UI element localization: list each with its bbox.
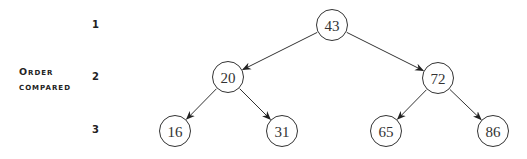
- edge-20-to-16: [187, 89, 217, 119]
- tree-nodes: 43207216316586: [160, 10, 509, 147]
- edge-20-to-31: [240, 89, 271, 120]
- node-value: 43: [325, 18, 340, 34]
- node-value: 16: [168, 124, 184, 140]
- node-value: 20: [221, 70, 236, 86]
- node-value: 31: [275, 124, 290, 140]
- node-value: 86: [486, 124, 502, 140]
- edge-72-to-86: [450, 89, 481, 119]
- edge-43-to-72: [347, 32, 423, 70]
- tree-node-65: 65: [371, 116, 402, 147]
- tree-node-20: 20: [213, 62, 244, 93]
- node-value: 65: [379, 124, 394, 140]
- tree-node-43: 43: [317, 10, 348, 41]
- edge-72-to-65: [398, 90, 427, 119]
- tree-node-31: 31: [267, 116, 298, 147]
- tree-node-72: 72: [423, 63, 454, 94]
- tree-node-16: 16: [160, 116, 191, 147]
- edge-43-to-20: [243, 32, 317, 69]
- tree-node-86: 86: [478, 116, 509, 147]
- node-value: 72: [431, 71, 446, 87]
- binary-tree-diagram: 43207216316586: [0, 0, 527, 159]
